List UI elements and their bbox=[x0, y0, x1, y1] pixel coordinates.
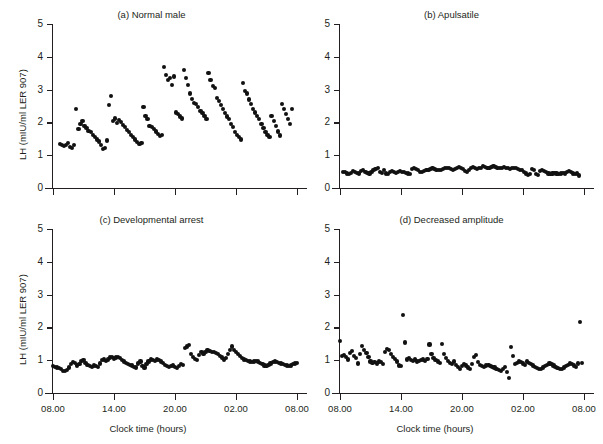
data-point bbox=[503, 365, 507, 369]
y-tick bbox=[334, 262, 340, 263]
x-tick-label: 08.00 bbox=[28, 404, 78, 414]
y-tick bbox=[334, 57, 340, 58]
y-tick-label: 3 bbox=[25, 290, 43, 300]
x-tick bbox=[297, 189, 298, 195]
x-tick bbox=[401, 394, 402, 400]
panel-d-title: (d) Decreased amplitude bbox=[300, 214, 603, 225]
data-point bbox=[470, 362, 474, 366]
y-tick-label: 2 bbox=[312, 117, 330, 127]
data-point bbox=[440, 342, 444, 346]
data-point bbox=[354, 356, 358, 360]
y-tick-label: 0 bbox=[25, 388, 43, 398]
panel-a-normal-male: (a) Normal male LH (mIU/ml LER 907) 0123… bbox=[0, 0, 303, 210]
x-tick bbox=[53, 189, 54, 195]
y-tick bbox=[47, 295, 53, 296]
data-point bbox=[408, 172, 412, 176]
data-point bbox=[139, 141, 143, 145]
panel-c-plot-area: 01234508.0014.0020.0002.0008.00 bbox=[53, 229, 297, 393]
x-tick bbox=[462, 189, 463, 195]
data-point bbox=[338, 339, 342, 343]
data-point bbox=[474, 353, 478, 357]
y-tick-label: 5 bbox=[25, 224, 43, 234]
y-tick bbox=[334, 360, 340, 361]
y-axis-line bbox=[339, 24, 340, 189]
data-point bbox=[580, 361, 584, 365]
x-tick bbox=[53, 394, 54, 400]
data-point bbox=[172, 74, 176, 78]
y-tick bbox=[47, 155, 53, 156]
data-point bbox=[186, 83, 190, 87]
x-tick bbox=[584, 394, 585, 400]
x-tick-label: 08.00 bbox=[559, 404, 603, 414]
data-point bbox=[280, 102, 284, 106]
y-axis-line bbox=[52, 229, 53, 394]
x-tick bbox=[236, 189, 237, 195]
y-tick-label: 5 bbox=[312, 19, 330, 29]
panel-b-plot-area: 012345 bbox=[340, 24, 584, 188]
data-point bbox=[107, 103, 111, 107]
x-tick bbox=[523, 394, 524, 400]
x-tick bbox=[114, 394, 115, 400]
panel-d-plot-area: 01234508.0014.0020.0002.0008.00 bbox=[340, 229, 584, 393]
x-tick bbox=[114, 189, 115, 195]
y-tick-label: 1 bbox=[312, 150, 330, 160]
data-point bbox=[195, 358, 199, 362]
panel-c-developmental-arrest: (c) Developmental arrest LH (mIU/ml LER … bbox=[0, 205, 303, 444]
data-point bbox=[204, 117, 208, 121]
x-tick-label: 20.00 bbox=[150, 404, 200, 414]
data-point bbox=[80, 119, 84, 123]
y-tick-label: 4 bbox=[312, 52, 330, 62]
y-tick-label: 2 bbox=[25, 322, 43, 332]
data-point bbox=[286, 117, 290, 121]
y-tick bbox=[334, 295, 340, 296]
y-tick bbox=[47, 327, 53, 328]
x-tick-label: 14.00 bbox=[376, 404, 426, 414]
data-point bbox=[356, 361, 360, 365]
data-point bbox=[507, 376, 511, 380]
data-point bbox=[181, 363, 185, 367]
x-tick bbox=[175, 394, 176, 400]
y-tick-label: 0 bbox=[312, 183, 330, 193]
data-point bbox=[249, 102, 253, 106]
data-point bbox=[74, 107, 78, 111]
x-tick bbox=[297, 394, 298, 400]
data-point bbox=[257, 117, 261, 121]
y-tick bbox=[47, 24, 53, 25]
data-point bbox=[509, 345, 513, 349]
y-tick bbox=[334, 155, 340, 156]
x-tick-label: 02.00 bbox=[498, 404, 548, 414]
x-tick-label: 14.00 bbox=[89, 404, 139, 414]
data-point bbox=[239, 137, 243, 141]
data-point bbox=[182, 68, 186, 72]
x-tick bbox=[584, 189, 585, 195]
x-tick-label: 20.00 bbox=[437, 404, 487, 414]
data-point bbox=[226, 352, 230, 356]
data-point bbox=[103, 146, 107, 150]
data-point bbox=[577, 173, 581, 177]
data-point bbox=[105, 138, 109, 142]
x-tick bbox=[401, 189, 402, 195]
data-point bbox=[366, 355, 370, 359]
panel-c-y-axis-title: LH (mIU/ml LER 907) bbox=[17, 274, 28, 365]
panel-c-x-axis-title: Clock time (hours) bbox=[26, 423, 270, 434]
data-point bbox=[438, 361, 442, 365]
x-tick bbox=[340, 394, 341, 400]
x-tick-label: 08.00 bbox=[315, 404, 365, 414]
data-point bbox=[399, 364, 403, 368]
x-tick bbox=[340, 189, 341, 195]
y-tick-label: 2 bbox=[25, 117, 43, 127]
data-point bbox=[231, 125, 235, 129]
data-point bbox=[134, 365, 138, 369]
x-tick-label: 02.00 bbox=[211, 404, 261, 414]
panel-a-title: (a) Normal male bbox=[0, 9, 303, 20]
y-axis-line bbox=[339, 229, 340, 394]
data-point bbox=[295, 361, 299, 365]
data-point bbox=[245, 91, 249, 95]
y-tick-label: 0 bbox=[312, 388, 330, 398]
y-tick-label: 0 bbox=[25, 183, 43, 193]
data-point bbox=[170, 83, 174, 87]
data-point bbox=[578, 320, 582, 324]
data-point bbox=[350, 349, 354, 353]
data-point bbox=[536, 173, 540, 177]
data-point bbox=[425, 357, 429, 361]
